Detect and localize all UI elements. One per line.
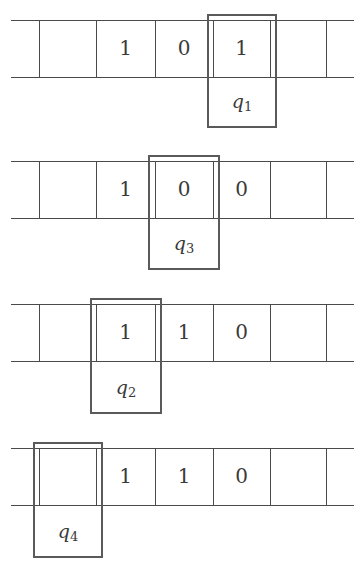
tape-configuration-1: 1 0 1 q1: [0, 0, 362, 140]
read-write-head: q2: [90, 298, 162, 414]
tape-cell: 1: [96, 161, 155, 218]
tape-cell: [270, 448, 326, 505]
tape-cell: [270, 304, 326, 361]
tape-cell: [270, 20, 326, 77]
tape-bottom-edge: [11, 77, 354, 78]
tape-cell: [39, 20, 96, 77]
cell-divider: [326, 448, 327, 505]
state-label: q4: [35, 520, 101, 544]
read-write-head: q3: [148, 155, 220, 270]
read-write-head: q4: [33, 442, 103, 558]
tape-configuration-4: 1 1 0 q4: [0, 428, 362, 568]
cell-divider: [326, 304, 327, 361]
state-label: q2: [92, 376, 160, 400]
tape-cell: [270, 161, 326, 218]
tape-cell: 0: [213, 304, 270, 361]
tape-cell: 1: [96, 20, 155, 77]
read-write-head: q1: [207, 14, 277, 128]
tape-cell: [39, 161, 96, 218]
tape-configuration-3: 1 1 0 q2: [0, 284, 362, 424]
tape-cell: 0: [155, 20, 213, 77]
tape-bottom-edge: [11, 361, 354, 362]
tape-cell: 1: [155, 304, 213, 361]
tape-configuration-2: 1 0 0 q3: [0, 141, 362, 281]
tape-cell: 1: [96, 448, 155, 505]
state-label: q3: [150, 232, 218, 256]
tape-cell: 0: [213, 448, 270, 505]
state-label: q1: [209, 90, 275, 114]
cell-divider: [326, 20, 327, 77]
tape-cell: 0: [213, 161, 270, 218]
tape-cell: [39, 304, 96, 361]
tape-cell: 1: [155, 448, 213, 505]
cell-divider: [326, 161, 327, 218]
